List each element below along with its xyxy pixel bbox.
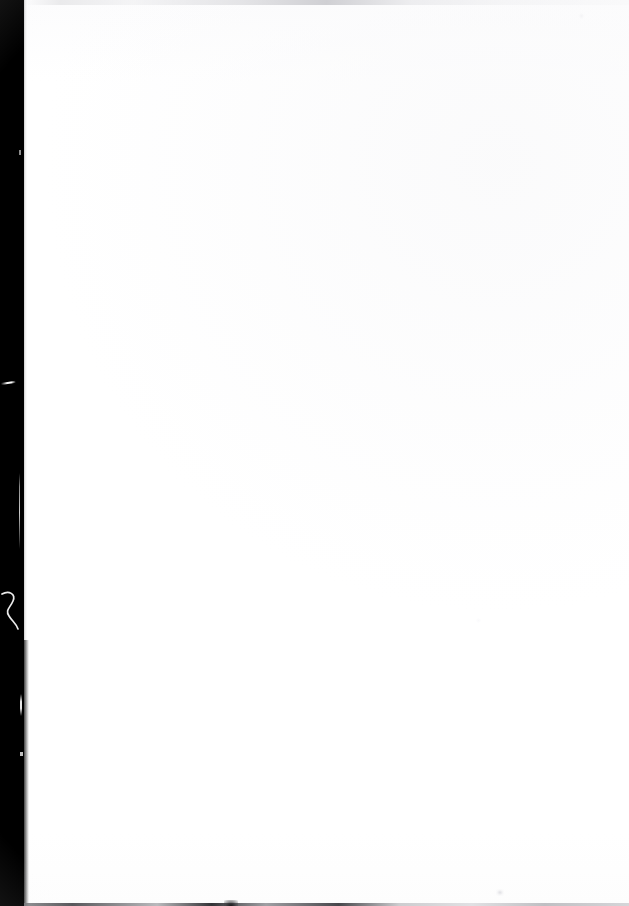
paper-surface [0, 0, 629, 906]
scanned-page [0, 0, 629, 906]
scan-gutter [0, 0, 24, 906]
